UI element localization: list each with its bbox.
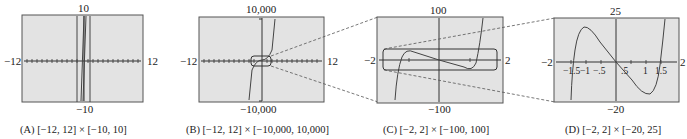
panel-a-caption: (A) [−12, 12] × [−10, 10] xyxy=(20,124,127,135)
panel-d-xmin-label: −2 xyxy=(541,57,553,68)
panel-b-ymin-label: −10,000 xyxy=(240,104,276,115)
panel-d-xtick: 1.5 xyxy=(655,66,667,76)
panel-d-xtick: 1 xyxy=(643,66,648,76)
panel-d-xtick: −1 xyxy=(580,66,590,76)
panel-b-xmin-label: −12 xyxy=(180,56,197,67)
panel-b xyxy=(199,17,324,102)
panel-a-xmin-label: −12 xyxy=(4,56,21,67)
panel-a-ymax-label: 10 xyxy=(78,3,89,14)
panel-d-xtick: −1.5 xyxy=(563,66,580,76)
panel-c-xmax-label: 2 xyxy=(505,55,511,66)
panel-c-caption: (C) [−2, 2] × [−100, 100] xyxy=(383,124,489,135)
panel-b-ymax-label: 10,000 xyxy=(246,4,276,15)
panel-a-ymin-label: −10 xyxy=(76,104,93,115)
figure: 10 −10 −12 12 (A) [−12, 12] × [−10, 10] … xyxy=(0,0,687,139)
panel-b-xmax-label: 12 xyxy=(327,56,338,67)
panel-a xyxy=(22,15,143,102)
panel-b-caption: (B) [−12, 12] × [−10,000, 10,000] xyxy=(186,124,329,135)
panel-d-caption: (D) [−2, 2] × [−20, 25] xyxy=(565,124,661,135)
panel-d xyxy=(554,18,679,102)
panel-c-xmin-label: −2 xyxy=(364,55,376,66)
panel-c xyxy=(377,17,503,103)
panel-c-ymin-label: −100 xyxy=(428,104,451,115)
panel-c-ymax-label: 100 xyxy=(430,5,447,16)
panel-d-xtick: .5 xyxy=(621,66,628,76)
panel-d-xmax-label: 2 xyxy=(680,57,686,68)
panel-d-xtick: −.5 xyxy=(593,66,605,76)
panel-a-xmax-label: 12 xyxy=(147,56,158,67)
panel-d-ymax-label: 25 xyxy=(610,6,621,17)
panel-d-ymin-label: −20 xyxy=(607,104,624,115)
